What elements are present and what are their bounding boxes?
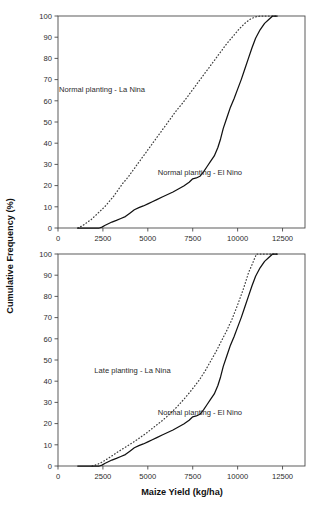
- y-tick-label: 20: [44, 419, 52, 428]
- x-tick-label: 12500: [272, 472, 293, 481]
- x-tick-label: 10000: [227, 472, 248, 481]
- series-annotation: Normal planting - El Nino: [158, 168, 242, 177]
- y-tick-label: 50: [44, 118, 52, 127]
- y-tick-label: 90: [44, 271, 52, 280]
- y-tick-label: 70: [44, 313, 52, 322]
- y-tick-label: 0: [48, 224, 52, 233]
- x-tick-label: 0: [56, 234, 60, 243]
- y-tick-label: 30: [44, 160, 52, 169]
- y-tick-label: 10: [44, 441, 52, 450]
- y-tick-label: 60: [44, 335, 52, 344]
- y-tick-label: 40: [44, 377, 52, 386]
- y-tick-label: 80: [44, 292, 52, 301]
- x-tick-label: 5000: [139, 234, 156, 243]
- y-axis-title: Cumulative Frequency (%): [5, 198, 15, 313]
- y-tick-label: 20: [44, 181, 52, 190]
- x-tick-label: 2500: [94, 234, 111, 243]
- x-tick-label: 12500: [272, 234, 293, 243]
- x-axis-title: Maize Yield (kg/ha): [141, 487, 223, 497]
- y-tick-label: 60: [44, 97, 52, 106]
- y-tick-label: 10: [44, 203, 52, 212]
- y-tick-label: 100: [39, 12, 52, 21]
- x-tick-label: 10000: [227, 234, 248, 243]
- x-tick-label: 5000: [139, 472, 156, 481]
- y-tick-label: 30: [44, 398, 52, 407]
- y-tick-label: 0: [48, 462, 52, 471]
- y-tick-label: 100: [39, 250, 52, 259]
- x-tick-label: 7500: [184, 234, 201, 243]
- figure-container: 0102030405060708090100025005000750010000…: [0, 0, 321, 512]
- series-annotation: Normal planting - El Nino: [158, 408, 242, 417]
- x-tick-label: 7500: [184, 472, 201, 481]
- y-tick-label: 70: [44, 75, 52, 84]
- x-tick-label: 0: [56, 472, 60, 481]
- maize-yield-cdf-chart: 0102030405060708090100025005000750010000…: [0, 0, 321, 512]
- y-tick-label: 50: [44, 356, 52, 365]
- y-tick-label: 40: [44, 139, 52, 148]
- series-annotation: Late planting - La Nina: [94, 366, 171, 375]
- y-tick-label: 80: [44, 54, 52, 63]
- x-tick-label: 2500: [94, 472, 111, 481]
- y-tick-label: 90: [44, 33, 52, 42]
- series-annotation: Normal planting - La Nina: [59, 85, 146, 94]
